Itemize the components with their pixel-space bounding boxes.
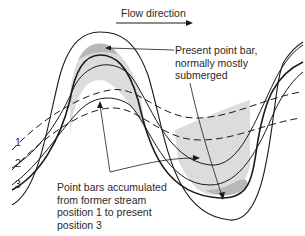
leader-accumulated-head-1 (97, 101, 103, 108)
present-bar-label: Present point bar, normally mostly subme… (175, 44, 257, 82)
position-2-label: 2 (15, 157, 21, 169)
leader-accumulated (100, 105, 110, 172)
flow-arrowhead (186, 20, 193, 26)
position-3-label: 3 (15, 178, 21, 190)
leader-present-bar (108, 48, 174, 50)
position-1-label: 1 (15, 136, 21, 148)
accumulated-bars-label: Point bars accumulated from former strea… (57, 181, 167, 231)
flow-direction-label: Flow direction (121, 7, 186, 20)
